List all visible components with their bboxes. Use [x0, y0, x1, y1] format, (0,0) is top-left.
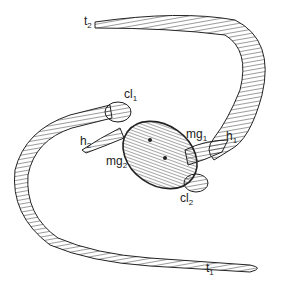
label-t1: t1	[206, 262, 214, 277]
label-mg1: mg1	[186, 128, 207, 143]
label-t2: t2	[84, 15, 92, 30]
label-cl2: cl2	[180, 192, 193, 207]
earthworm-diagram	[0, 0, 281, 298]
clitellum-2	[184, 174, 208, 192]
clitellum-1	[105, 102, 131, 122]
label-cl1: cl1	[124, 88, 137, 103]
label-h2: h2	[80, 135, 91, 150]
label-h1: h1	[226, 130, 237, 145]
label-mg2: mg2	[106, 155, 127, 170]
